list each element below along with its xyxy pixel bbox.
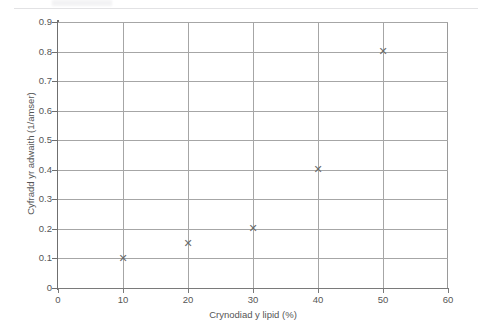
y-axis-tick [52,111,58,112]
y-axis-tick-label: 0.9 [26,17,52,27]
plot-area: ✕✕✕✕✕ [58,22,448,288]
y-axis-tick-label: 0 [26,283,52,293]
y-axis-tick [52,258,58,259]
data-point-marker: ✕ [313,164,324,175]
x-axis-tick [58,288,59,293]
y-axis-title: Cyfradd yr adwaith (1/amser) [25,44,36,264]
gridline-vertical [123,22,124,288]
x-axis-tick [253,288,254,293]
gridline-vertical [253,22,254,288]
y-axis-tick [52,22,58,23]
chart-page: 00.10.20.30.40.50.60.70.80.9 Cyfradd yr … [0,0,490,334]
data-point-marker: ✕ [118,253,129,264]
y-axis-tick [52,81,58,82]
gridline-vertical [318,22,319,288]
x-axis-tick [448,288,449,293]
x-axis-tick [383,288,384,293]
plot-frame-right [447,22,448,288]
x-axis-tick [188,288,189,293]
data-point-marker: ✕ [183,238,194,249]
x-axis-tick-label: 30 [238,294,268,305]
y-axis-tick [52,199,58,200]
x-axis-tick [123,288,124,293]
gridline-vertical [383,22,384,288]
y-axis-tick [52,52,58,53]
data-point-marker: ✕ [248,223,259,234]
x-axis-tick [318,288,319,293]
top-divider-rule [14,8,478,9]
y-axis-tick [52,140,58,141]
x-axis-tick-label: 40 [303,294,333,305]
x-axis-tick-label: 20 [173,294,203,305]
cropped-text-remnant [52,0,112,6]
x-axis-tick-label: 0 [43,294,73,305]
x-axis-tick-label: 60 [433,294,463,305]
data-point-marker: ✕ [378,46,389,57]
x-axis-title: Crynodiad y lipid (%) [58,309,448,320]
x-axis-tick-label: 50 [368,294,398,305]
x-axis-tick-label: 10 [108,294,138,305]
y-axis-tick [52,229,58,230]
y-axis-tick [52,170,58,171]
